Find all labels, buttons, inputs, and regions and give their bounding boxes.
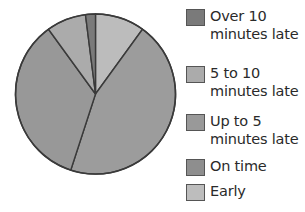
legend-swatch: [186, 184, 205, 201]
legend-label: On time: [210, 157, 305, 175]
legend-item-5-to-10: 5 to 10minutes late: [186, 64, 305, 100]
legend-label: Over 10minutes late: [210, 7, 305, 43]
legend-item-early: Early: [186, 182, 305, 201]
legend-item-up-to-5: Up to 5minutes late: [186, 112, 305, 148]
legend-label: Up to 5minutes late: [210, 112, 305, 148]
legend-item-over-10: Over 10minutes late: [186, 7, 305, 43]
legend-swatch: [186, 159, 205, 176]
legend-item-on-time: On time: [186, 157, 305, 176]
legend-swatch: [186, 66, 205, 83]
legend-swatch: [186, 9, 205, 26]
legend-label: Early: [210, 182, 305, 200]
pie-chart: [0, 0, 185, 190]
legend-label: 5 to 10minutes late: [210, 64, 305, 100]
legend-swatch: [186, 114, 205, 131]
